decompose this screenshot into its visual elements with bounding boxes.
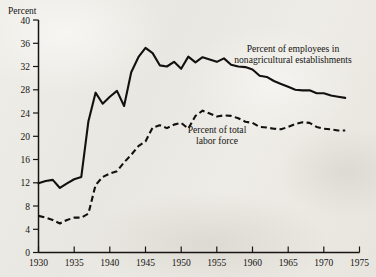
x-tick-label: 1970 bbox=[314, 258, 333, 268]
annotation-nonagricultural-line1: Percent of employees in bbox=[247, 43, 340, 54]
chart-figure: Percent 40 36 32 28 24 20 bbox=[0, 0, 376, 277]
x-tick-label: 1975 bbox=[350, 258, 369, 268]
annotation-nonagricultural-line2: nonagricultural establishments bbox=[234, 54, 352, 65]
x-tick-label: 1960 bbox=[243, 258, 262, 268]
x-tick-label: 1945 bbox=[136, 258, 155, 268]
y-axis-tick-labels: 40 36 32 28 24 20 16 12 8 4 0 bbox=[21, 16, 31, 259]
y-tick-label: 32 bbox=[21, 62, 31, 72]
x-tick-label: 1935 bbox=[65, 258, 84, 268]
annotation-nonagricultural: Percent of employees in nonagricultural … bbox=[234, 43, 352, 65]
x-tick-label: 1965 bbox=[279, 258, 298, 268]
x-axis-tick-labels: 1930 1935 1940 1945 1950 1955 1960 1965 … bbox=[29, 258, 369, 268]
y-tick-label: 16 bbox=[21, 155, 31, 165]
x-tick-label: 1930 bbox=[29, 258, 48, 268]
y-tick-label: 12 bbox=[21, 178, 31, 188]
y-axis-title: Percent bbox=[8, 6, 37, 16]
y-tick-label: 40 bbox=[21, 16, 31, 26]
y-tick-label: 24 bbox=[21, 109, 31, 119]
x-tick-label: 1955 bbox=[207, 258, 226, 268]
y-axis-ticks bbox=[33, 20, 39, 253]
annotation-labor-force: Percent of total labor force bbox=[188, 124, 247, 146]
y-tick-label: 8 bbox=[25, 202, 30, 212]
y-tick-label: 20 bbox=[21, 132, 31, 142]
y-tick-label: 0 bbox=[25, 248, 30, 258]
line-chart-plot: Percent 40 36 32 28 24 20 bbox=[0, 0, 376, 277]
x-tick-label: 1950 bbox=[172, 258, 191, 268]
annotation-labor-force-line2: labor force bbox=[196, 135, 238, 146]
annotation-labor-force-line1: Percent of total bbox=[188, 124, 247, 135]
y-tick-label: 4 bbox=[25, 225, 30, 235]
x-axis-ticks bbox=[39, 247, 360, 253]
x-tick-label: 1940 bbox=[100, 258, 119, 268]
series-line-nonagricultural-employees bbox=[39, 48, 346, 188]
y-tick-label: 36 bbox=[21, 39, 31, 49]
y-tick-label: 28 bbox=[21, 85, 31, 95]
